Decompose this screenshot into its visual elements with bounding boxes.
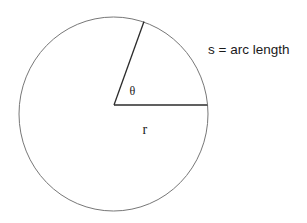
circle-arc-diagram: s = arc length θ r <box>0 0 307 223</box>
radius-r-label: r <box>143 122 148 137</box>
angle-theta-label: θ <box>130 84 136 98</box>
arc-length-label: s = arc length <box>208 42 289 57</box>
circle-outline <box>19 17 208 211</box>
